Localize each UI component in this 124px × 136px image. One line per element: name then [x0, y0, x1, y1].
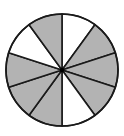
fraction-circle-diagram	[0, 0, 124, 136]
center-dot	[60, 68, 64, 72]
